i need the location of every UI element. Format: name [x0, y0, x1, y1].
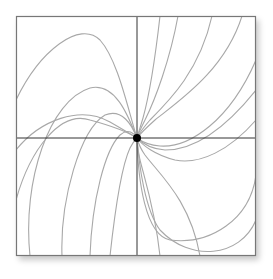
trajectory-curve: [16, 115, 137, 150]
trajectory-curve: [137, 138, 256, 241]
equilibrium-point: [133, 134, 141, 142]
trajectory-curve: [110, 138, 137, 256]
trajectory-curve: [29, 87, 137, 256]
trajectory-curve: [137, 138, 256, 252]
trajectory-curve: [137, 16, 160, 138]
trajectory-curve: [137, 138, 160, 256]
trajectory-curve: [16, 34, 137, 138]
trajectory-curve: [90, 132, 137, 256]
trajectory-curve: [137, 16, 242, 138]
trajectory-curve: [137, 120, 256, 161]
phase-portrait-plot: [0, 0, 273, 279]
trajectory-curve: [137, 60, 256, 146]
